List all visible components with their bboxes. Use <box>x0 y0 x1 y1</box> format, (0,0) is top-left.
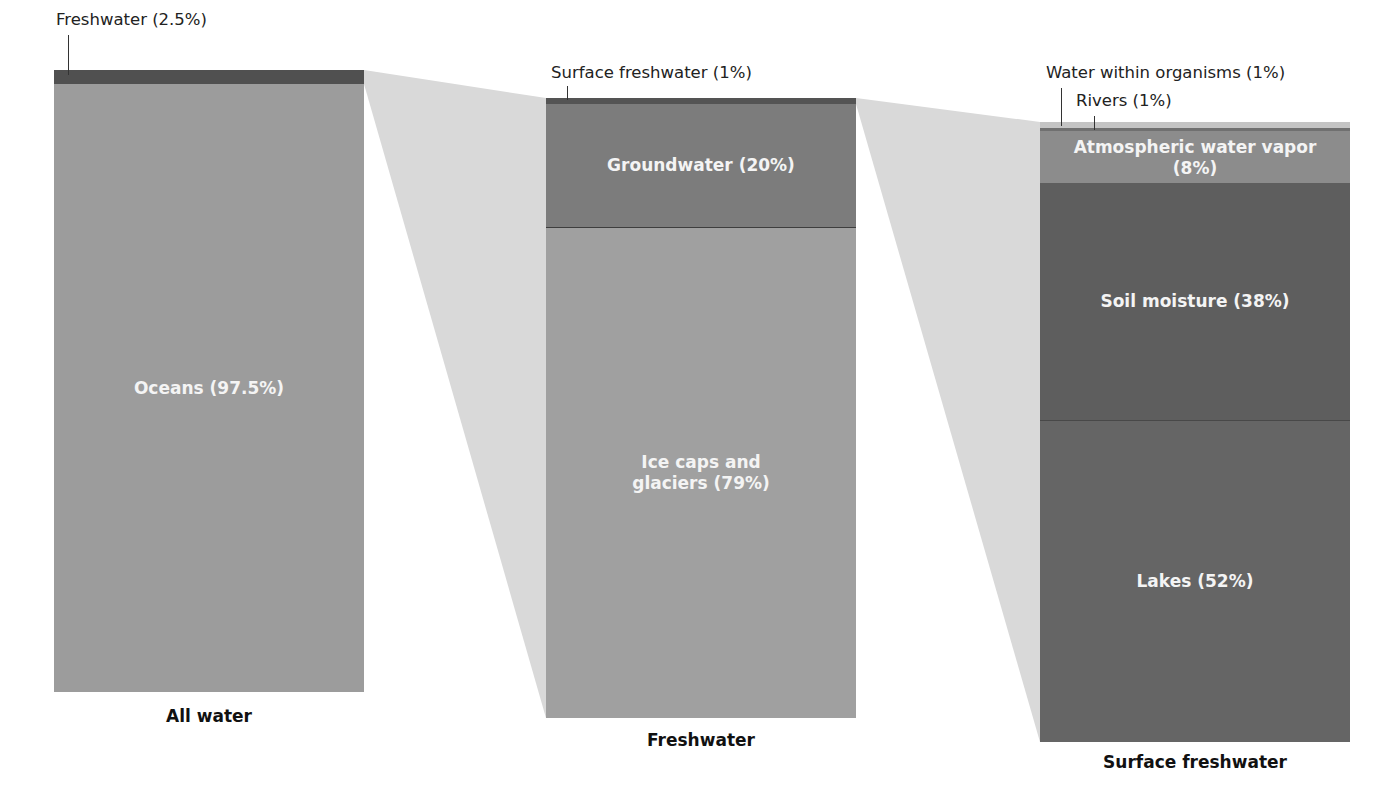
segment-atmospheric-water-vapor: Atmospheric water vapor (8%) <box>1040 131 1350 183</box>
segment-groundwater: Groundwater (20%) <box>546 104 856 227</box>
segment-label-soil-moisture: Soil moisture (38%) <box>1100 291 1289 312</box>
segment-label-atmospheric-line2: (8%) <box>1173 158 1217 179</box>
wedge-freshwater <box>364 70 546 718</box>
segment-label-oceans: Oceans (97.5%) <box>134 378 284 399</box>
bar-title-freshwater: Freshwater <box>546 730 856 750</box>
segment-label-atmospheric-line1: Atmospheric water vapor <box>1074 137 1317 158</box>
segment-lakes: Lakes (52%) <box>1040 421 1350 742</box>
callout-surface-freshwater: Surface freshwater (1%) <box>551 63 752 82</box>
bar-title-all-water: All water <box>54 706 364 726</box>
leader-line-organisms <box>1061 88 1062 126</box>
leader-line-rivers <box>1094 116 1095 130</box>
segment-label-ice-caps-line2: glaciers (79%) <box>632 473 770 494</box>
segment-label-lakes: Lakes (52%) <box>1137 571 1254 592</box>
wedge-surface-freshwater <box>856 98 1040 742</box>
segment-oceans: Oceans (97.5%) <box>54 84 364 692</box>
callout-rivers: Rivers (1%) <box>1076 91 1172 110</box>
segment-label-groundwater: Groundwater (20%) <box>607 155 795 176</box>
leader-line-surface-freshwater <box>567 86 568 100</box>
bar-title-surface-freshwater: Surface freshwater <box>1040 752 1350 772</box>
segment-freshwater <box>54 70 364 84</box>
segment-label-ice-caps-line1: Ice caps and <box>641 452 760 473</box>
segment-ice-caps: Ice caps and glaciers (79%) <box>546 228 856 718</box>
segment-soil-moisture: Soil moisture (38%) <box>1040 183 1350 420</box>
callout-freshwater: Freshwater (2.5%) <box>56 10 207 29</box>
leader-line-freshwater <box>68 35 69 75</box>
callout-water-within-organisms: Water within organisms (1%) <box>1046 63 1285 82</box>
